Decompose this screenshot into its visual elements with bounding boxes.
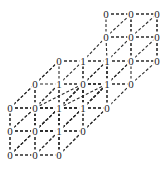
lattice-node-nC: 0 xyxy=(102,32,110,43)
lattice-node-n211: 1 xyxy=(79,103,87,114)
lattice-node-n201: 0 xyxy=(79,126,87,137)
lattice-node-n021: 0 xyxy=(31,79,39,90)
lattice-node-n010: 0 xyxy=(6,126,14,137)
lattice-node-n221: 1 xyxy=(103,79,111,90)
lattice-node-n012: 0 xyxy=(79,79,87,90)
lattice-node-n222: 1 xyxy=(103,56,111,67)
lattice-node-n200: 0 xyxy=(55,150,63,161)
lattice-node-nF: 0 xyxy=(102,9,110,20)
lattice-node-nH: 0 xyxy=(153,9,161,20)
lattice-node-n110: 0 xyxy=(31,126,39,137)
lattice-node-n122: 1 xyxy=(79,56,87,67)
lattice-node-nG: 0 xyxy=(127,9,135,20)
lattice-node-n020: 0 xyxy=(6,103,14,114)
lattice-node-n121: 1 xyxy=(55,79,63,90)
lattice-node-nD: 0 xyxy=(127,32,135,43)
lattice-node-n120: 0 xyxy=(31,103,39,114)
lattice-node-n000: 0 xyxy=(6,150,14,161)
lattice-node-n022: 0 xyxy=(55,56,63,67)
lattice-node-nE: 0 xyxy=(153,32,161,43)
lattice-node-n100: 0 xyxy=(31,150,39,161)
lattice-node-n202: 0 xyxy=(103,103,111,114)
lattice-node-n212: 0 xyxy=(127,79,135,90)
lattice-node-n220: 1 xyxy=(55,103,63,114)
lattice-figure: 00000000000102101000101101100000000 xyxy=(0,0,168,169)
lattice-node-nA: 0 xyxy=(127,56,135,67)
lattice-node-n210: 1 xyxy=(55,126,63,137)
lattice-node-nB: 0 xyxy=(153,56,161,67)
